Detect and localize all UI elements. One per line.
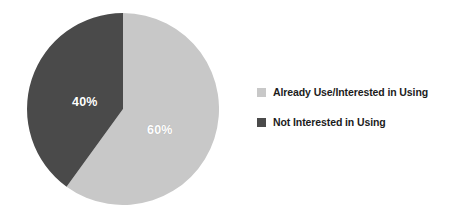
legend-swatch-icon-already-use-interested: [257, 88, 266, 97]
legend-item-not-interested[interactable]: Not Interested in Using: [257, 116, 428, 128]
legend: Already Use/Interested in Using Not Inte…: [257, 86, 428, 128]
pie-value-label-already-use-interested: 60%: [147, 123, 173, 137]
legend-swatch-icon-not-interested: [257, 118, 266, 127]
pie-chart-graphic: 40% 60%: [27, 13, 219, 205]
pie-svg: [27, 13, 219, 205]
pie-chart-figure: 40% 60% Already Use/Interested in Using …: [0, 0, 453, 221]
legend-label-already-use-interested: Already Use/Interested in Using: [273, 86, 428, 98]
legend-label-not-interested: Not Interested in Using: [273, 116, 386, 128]
legend-item-already-use-interested[interactable]: Already Use/Interested in Using: [257, 86, 428, 98]
pie-value-label-not-interested: 40%: [72, 95, 98, 109]
